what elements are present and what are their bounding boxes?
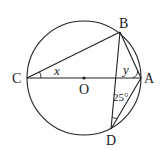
- label-b: B: [119, 16, 128, 31]
- angle-label-25: 25°: [113, 91, 128, 103]
- center-point: [82, 76, 85, 79]
- angle-arc-x: [40, 72, 42, 78]
- label-o: O: [79, 82, 89, 97]
- segment-cb: [27, 32, 120, 78]
- label-c: C: [12, 71, 21, 86]
- label-a: A: [144, 71, 155, 86]
- angle-arc-d: [112, 117, 117, 119]
- geometry-diagram: B C A O D x y 25°: [0, 0, 163, 150]
- angle-label-y: y: [121, 62, 129, 77]
- angle-arc-y: [133, 71, 138, 78]
- angle-label-x: x: [53, 63, 60, 78]
- segment-bd: [111, 32, 120, 129]
- label-d: D: [106, 133, 116, 148]
